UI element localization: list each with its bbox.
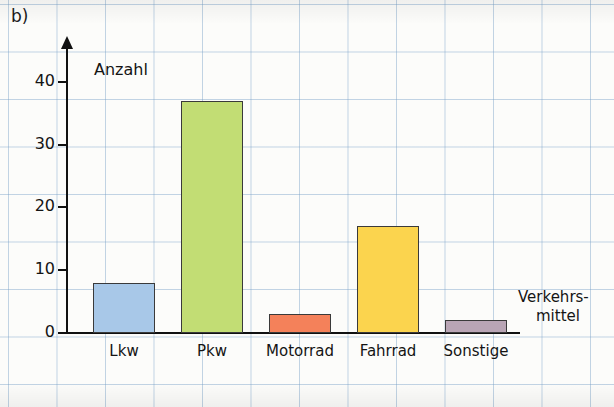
bar [93,283,155,333]
x-axis-category-label: Sonstige [416,342,536,360]
y-axis-tick: 0 [58,332,67,334]
y-axis-tick: 40 [58,81,67,83]
bar [269,314,331,333]
chart-page: b) Anzahl 010203040 LkwPkwMotorradFahrra… [0,0,614,407]
bar [357,226,419,333]
x-axis-title-line1: Verkehrs- [518,288,589,306]
y-axis-tick: 10 [58,269,67,271]
y-axis-tick-label: 30 [35,134,55,153]
y-axis-tick-label: 40 [35,71,55,90]
bar-series: LkwPkwMotorradFahrradSonstige [68,36,536,333]
panel-label: b) [11,6,28,26]
y-axis-tick-label: 10 [35,259,55,278]
y-axis-tick-label: 0 [45,322,55,341]
y-axis-tick: 20 [58,206,67,208]
x-axis-title-line2: mittel [536,307,589,326]
y-axis-tick: 30 [58,144,67,146]
bar [445,320,507,333]
x-axis-title: Verkehrs- mittel [518,288,589,326]
plot-area: Anzahl 010203040 LkwPkwMotorradFahrradSo… [66,36,536,334]
bar [181,101,243,333]
y-axis-tick-label: 20 [35,196,55,215]
